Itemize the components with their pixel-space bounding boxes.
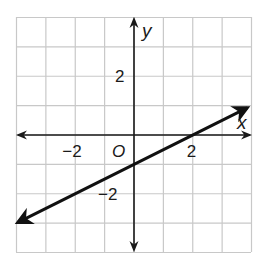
x-tick-label: 2 xyxy=(187,142,196,161)
x-axis-label: x xyxy=(236,112,248,133)
y-axis-label: y xyxy=(140,20,153,41)
origin-label: O xyxy=(112,142,125,161)
y-tick-label: −2 xyxy=(98,185,117,204)
coordinate-plane: y x O −222−2 xyxy=(0,0,267,264)
x-tick-label: −2 xyxy=(62,142,81,161)
axes xyxy=(18,19,250,250)
plotted-line xyxy=(18,108,247,223)
y-tick-label: 2 xyxy=(115,67,124,86)
